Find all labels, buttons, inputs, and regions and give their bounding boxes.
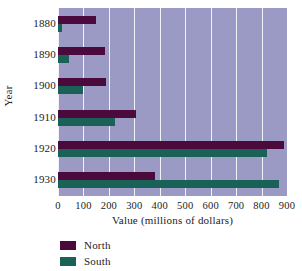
y-tick-label-1890: 1890 xyxy=(16,49,56,60)
y-tick-label-1930: 1930 xyxy=(16,174,56,185)
x-axis-tick-labels: 0100200300400500600700800900 xyxy=(58,200,287,214)
plot-area xyxy=(58,8,287,196)
x-tick-label-200: 200 xyxy=(101,200,117,212)
gridline xyxy=(83,8,84,196)
bar-south-1910 xyxy=(58,118,115,126)
bar-north-1890 xyxy=(58,47,105,55)
bar-south-1930 xyxy=(58,180,279,188)
chart-legend: NorthSouth xyxy=(60,238,111,270)
bar-north-1900 xyxy=(58,78,106,86)
gridline xyxy=(211,8,212,196)
x-tick-label-900: 900 xyxy=(279,200,295,212)
gridline xyxy=(58,8,59,196)
y-tick-label-1880: 1880 xyxy=(16,18,56,29)
bar-south-1880 xyxy=(58,24,62,32)
legend-label-north: North xyxy=(84,240,111,251)
bar-chart: Year 188018901900191019201930 0100200300… xyxy=(0,0,302,271)
bar-north-1880 xyxy=(58,16,96,24)
bar-north-1910 xyxy=(58,110,136,118)
gridline xyxy=(185,8,186,196)
x-tick-label-600: 600 xyxy=(202,200,218,212)
y-axis-tick-labels: 188018901900191019201930 xyxy=(12,0,56,196)
gridline xyxy=(109,8,110,196)
legend-item-south: South xyxy=(60,254,111,268)
x-tick-label-100: 100 xyxy=(75,200,91,212)
y-tick-label-1910: 1910 xyxy=(16,112,56,123)
bar-north-1930 xyxy=(58,172,155,180)
gridline xyxy=(236,8,237,196)
legend-swatch-north xyxy=(60,241,76,250)
bar-south-1900 xyxy=(58,86,83,94)
gridline xyxy=(262,8,263,196)
legend-item-north: North xyxy=(60,238,111,252)
x-tick-label-300: 300 xyxy=(126,200,142,212)
bar-south-1890 xyxy=(58,55,69,63)
gridline xyxy=(160,8,161,196)
legend-label-south: South xyxy=(84,256,111,267)
x-axis-title: Value (millions of dollars) xyxy=(58,214,287,226)
legend-swatch-south xyxy=(60,257,76,266)
x-tick-label-800: 800 xyxy=(253,200,269,212)
y-tick-label-1900: 1900 xyxy=(16,80,56,91)
bar-north-1920 xyxy=(58,141,284,149)
y-tick-label-1920: 1920 xyxy=(16,143,56,154)
x-tick-label-500: 500 xyxy=(177,200,193,212)
x-tick-label-400: 400 xyxy=(152,200,168,212)
x-tick-label-0: 0 xyxy=(55,200,60,212)
gridline xyxy=(134,8,135,196)
bar-south-1920 xyxy=(58,149,267,157)
x-tick-label-700: 700 xyxy=(228,200,244,212)
